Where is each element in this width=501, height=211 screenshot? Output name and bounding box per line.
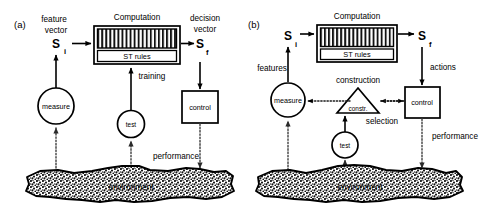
panel-b-selection-label: selection	[366, 117, 399, 126]
panel-a-input-subscript: i	[64, 47, 66, 56]
panel-b-input-subscript: i	[295, 40, 297, 49]
panel-b-construction-label: construction	[336, 76, 381, 85]
panel-a-performance-label: performance	[153, 152, 199, 161]
panel-a-training-label: training	[139, 72, 166, 81]
panel-a-processor-array	[98, 29, 177, 48]
panel-a-st-rules-label: ST rules	[123, 52, 151, 61]
panel-a-test-label: test	[126, 121, 137, 128]
panel-b-input-caption: features	[257, 64, 287, 73]
panel-b-tag: (b)	[248, 19, 260, 30]
panel-b-environment-label: environment	[337, 183, 383, 192]
panel-a-environment-label: environment	[108, 183, 154, 192]
panel-b-test-label: test	[340, 142, 351, 149]
panel-a-output-caption-line1: decision	[190, 14, 220, 23]
panel-b-input-symbol: S	[284, 29, 292, 43]
panel-a-input-caption-line2: vector	[45, 26, 68, 35]
panel-a-measure-label: measure	[42, 102, 70, 111]
panel-b-computation-label: Computation	[334, 12, 381, 21]
panel-b: (b) S i S f Computation ST rules feature…	[248, 12, 478, 202]
panel-b-output-caption: actions	[430, 63, 456, 72]
panel-b-control-label: control	[411, 98, 433, 107]
panel-a-tag: (a)	[14, 19, 26, 30]
panel-b-st-rules-label: ST rules	[343, 50, 371, 59]
panel-b-performance-label: performance	[432, 132, 478, 141]
panel-a-output-symbol: S	[196, 37, 204, 51]
panel-a-input-caption-line1: feature	[41, 15, 67, 24]
panel-a-input-symbol: S	[52, 37, 60, 51]
panel-a-output-subscript: f	[206, 48, 209, 57]
panel-b-output-symbol: S	[418, 29, 426, 43]
panel-a-output-caption-line2: vector	[194, 25, 217, 34]
panel-b-constr-label: constr.	[349, 105, 368, 112]
figure-canvas: (a) feature vector S i decision vector S…	[0, 0, 501, 211]
panel-a-control-label: control	[189, 103, 211, 112]
diagram-svg: (a) feature vector S i decision vector S…	[0, 0, 501, 211]
panel-b-output-subscript: f	[429, 40, 432, 49]
panel-b-measure-label: measure	[274, 96, 302, 105]
panel-a-computation-label: Computation	[114, 13, 161, 22]
panel-a: (a) feature vector S i decision vector S…	[14, 13, 234, 202]
panel-b-processor-array	[321, 28, 394, 47]
